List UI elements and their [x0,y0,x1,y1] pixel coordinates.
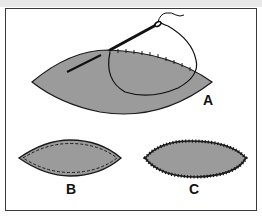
panel-a-fabric [32,22,212,114]
needle-icon [110,13,184,50]
label-a: A [203,93,213,107]
label-b: B [66,182,76,196]
sewing-diagram [0,0,262,216]
label-c: C [189,182,199,196]
panel-b-fabric [19,140,121,176]
panel-c-fabric [145,141,246,177]
